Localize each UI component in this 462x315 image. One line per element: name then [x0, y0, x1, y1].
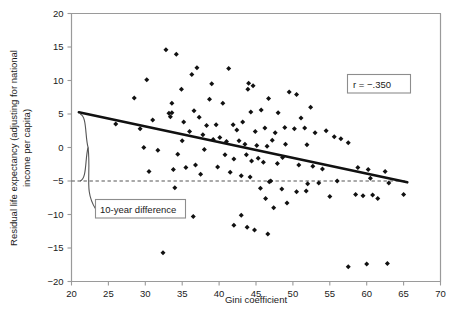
y-axis-title-line1: Residual life expectancy (adjusting for …	[8, 50, 19, 246]
y-tick-label: 5	[58, 108, 63, 119]
ten-year-difference-label: 10-year difference	[100, 204, 176, 215]
y-tick-label: 20	[53, 8, 64, 19]
correlation-annotation: r = −.350	[348, 75, 411, 94]
y-tick-label: −15	[47, 242, 63, 253]
x-tick-label: 60	[361, 288, 372, 299]
y-tick-label: 15	[53, 41, 64, 52]
x-axis-title: Gini coefficient	[225, 294, 287, 305]
y-tick-label: −5	[53, 175, 64, 186]
y-tick-label: 0	[58, 142, 63, 153]
x-tick-label: 25	[103, 288, 114, 299]
correlation-label: r = −.350	[353, 79, 391, 90]
x-tick-label: 20	[66, 288, 77, 299]
y-axis-title-line2: income per capita)	[21, 109, 32, 187]
x-tick-label: 30	[140, 288, 151, 299]
x-tick-label: 35	[177, 288, 188, 299]
x-tick-label: 65	[398, 288, 409, 299]
x-tick-label: 40	[214, 288, 225, 299]
scatter-chart-figure: 20151050−5−10−15−20 20253035404550556065…	[0, 0, 462, 315]
y-tick-label: 10	[53, 75, 64, 86]
y-tick-label: −20	[47, 276, 63, 287]
x-tick-label: 70	[435, 288, 446, 299]
x-tick-label: 55	[325, 288, 336, 299]
ten-year-difference-annotation: 10-year difference	[96, 200, 186, 219]
x-tick-label: 50	[288, 288, 299, 299]
y-tick-label: −10	[47, 209, 63, 220]
chart-canvas: 20151050−5−10−15−20 20253035404550556065…	[0, 0, 462, 315]
